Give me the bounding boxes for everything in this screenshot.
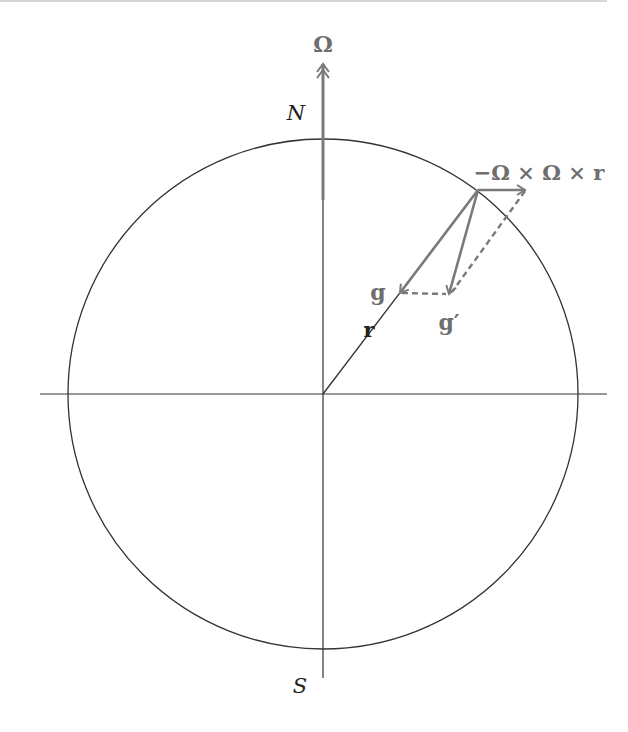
effective-gravity-label: g′ — [438, 309, 459, 335]
south-label: S — [293, 674, 307, 698]
dashed-g-to-gprime — [402, 293, 446, 294]
radius-label: r — [363, 317, 375, 342]
omega-label: Ω — [313, 31, 333, 57]
gravity-label: g — [370, 279, 385, 305]
centrifugal-label: −Ω × Ω × r — [474, 160, 605, 185]
north-label: N — [286, 101, 306, 125]
gravity-vector — [400, 190, 478, 293]
rotating-earth-diagram: Ω N S r g g′ −Ω × Ω × r — [0, 0, 628, 732]
effective-gravity-vector — [449, 190, 478, 294]
